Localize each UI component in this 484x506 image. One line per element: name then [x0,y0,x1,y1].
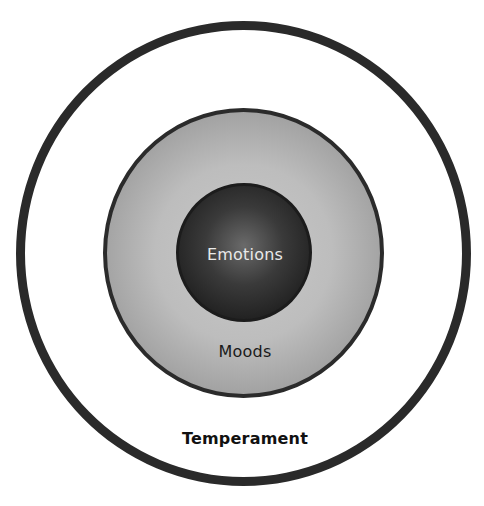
concentric-diagram: Emotions Moods Temperament [0,0,484,506]
emotions-label: Emotions [207,245,283,264]
moods-label: Moods [219,342,272,361]
temperament-label: Temperament [182,429,308,448]
